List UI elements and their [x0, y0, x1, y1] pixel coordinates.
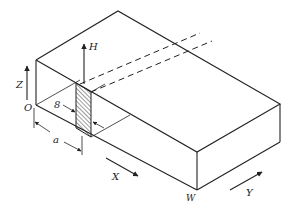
width-label: W — [186, 193, 196, 203]
x-axis-arrow: X — [106, 158, 138, 182]
block-diagram: H Z O 8 a X Y W — [0, 0, 294, 218]
hatched-slab — [76, 83, 130, 137]
block-outline — [36, 11, 280, 190]
z-label: Z — [15, 79, 24, 90]
h-label: H — [88, 41, 98, 52]
distance-dimension: a — [34, 108, 82, 155]
distance-label: a — [53, 134, 59, 145]
thickness-label: 8 — [54, 99, 60, 110]
origin-label: O — [24, 102, 32, 113]
y-label: Y — [246, 187, 254, 198]
h-field-arrow: H — [84, 41, 98, 84]
x-label: X — [111, 171, 120, 182]
dashed-slab-projection — [80, 33, 212, 92]
z-axis-arrow: Z — [15, 66, 27, 100]
y-axis-arrow: Y — [230, 172, 262, 198]
